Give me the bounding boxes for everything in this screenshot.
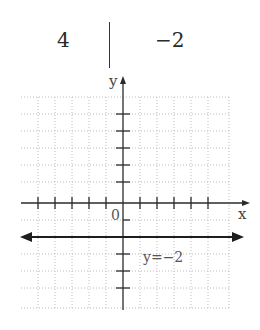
- x-axis-label: x: [238, 205, 247, 223]
- y-axis-label: y: [108, 72, 118, 90]
- coordinate-plane: y x 0 y=−2: [0, 0, 260, 330]
- left-arrow-icon: [20, 232, 32, 242]
- right-arrow-icon: [232, 232, 244, 242]
- x-axis: [21, 197, 245, 209]
- line-label: y=−2: [142, 249, 183, 265]
- y-axis-arrow-icon: [120, 76, 126, 84]
- y-axis: [116, 80, 130, 310]
- line-y-neg-2: [20, 232, 244, 242]
- origin-label: 0: [111, 207, 120, 223]
